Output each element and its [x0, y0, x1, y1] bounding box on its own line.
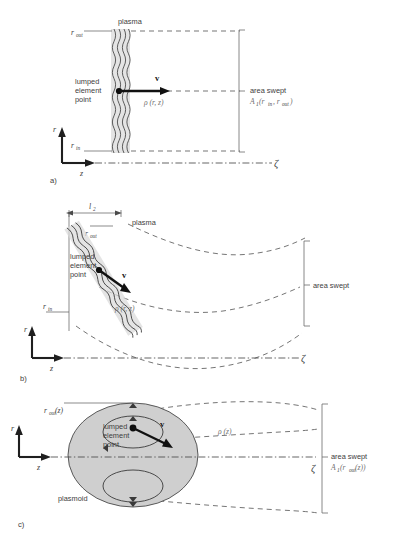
panel-b-z-axis-arrowhead: [54, 354, 64, 362]
panel-b-area-swept-label: area swept: [313, 281, 349, 290]
panel-c-r-axis-label: r: [11, 424, 15, 433]
svg-text:lumped: lumped: [103, 422, 127, 431]
panel-a-lumped-element-label: lumped element point: [75, 77, 101, 104]
panel-b: l 2 r out r in plasma: [20, 202, 349, 383]
svg-text:out: out: [282, 101, 289, 107]
panel-b-r-axis-arrowhead: [28, 326, 36, 336]
svg-text:A: A: [330, 463, 336, 472]
svg-text:element: element: [75, 86, 101, 95]
panel-c-z-axis-arrowhead: [41, 453, 51, 461]
panel-c-r-axis-arrowhead: [15, 425, 23, 435]
panel-c-dashed-top: [150, 402, 318, 410]
panel-a-r-axis-arrowhead: [58, 127, 66, 137]
panel-b-velocity-label: v: [122, 270, 127, 280]
panel-b-z-axis-label: z: [49, 364, 54, 373]
panel-c-rho-label: ρ (z): [217, 427, 232, 436]
svg-text:in: in: [48, 306, 52, 312]
svg-text:(r: (r: [259, 97, 265, 106]
panel-a-plasma-label: plasma: [118, 17, 143, 26]
panel-a-zeta-label: ζ: [274, 158, 279, 170]
svg-text:(z): (z): [55, 406, 63, 415]
svg-text:lumped: lumped: [75, 77, 99, 86]
panel-b-r-axis-label: r: [24, 325, 28, 334]
panel-b-label: b): [20, 374, 27, 383]
panel-b-area-bracket: [304, 241, 310, 326]
svg-text:element: element: [70, 261, 96, 270]
svg-text:point: point: [70, 270, 86, 279]
panel-b-velocity-arrowhead: [120, 283, 131, 293]
panel-a-velocity-label: v: [155, 73, 160, 83]
panel-b-zeta-label: ζ: [301, 353, 306, 365]
panel-c-r-out-label: r out (z): [44, 406, 63, 416]
svg-text:lumped: lumped: [70, 252, 94, 261]
svg-text:, r: , r: [273, 97, 280, 106]
svg-text:2: 2: [93, 206, 96, 212]
svg-text:point: point: [103, 440, 119, 449]
panel-a-z-axis-arrowhead: [85, 159, 95, 167]
svg-text:r: r: [44, 406, 47, 415]
panel-b-dashed-bottom: [76, 326, 302, 369]
svg-text:): ): [289, 97, 293, 106]
panel-b-r-in-label: r in: [43, 302, 52, 312]
panel-a-velocity-arrowhead: [160, 87, 170, 95]
panel-b-plasma-label: plasma: [132, 218, 157, 227]
panel-a-area-swept-label: area swept: [250, 86, 286, 95]
panel-c-plasmoid-label: plasmoid: [58, 494, 88, 503]
panel-a-r-in-label: r in: [71, 141, 80, 151]
svg-text:r: r: [71, 141, 74, 150]
panel-c-z-axis-label: z: [36, 463, 41, 472]
panel-c-area-bracket: [322, 404, 328, 513]
svg-text:out: out: [76, 32, 83, 38]
panel-b-length-arrow-left: [66, 210, 73, 215]
panel-a-label: a): [50, 176, 57, 185]
svg-text:(z)): (z)): [355, 463, 366, 472]
svg-text:out: out: [90, 233, 97, 239]
panel-b-length-label: l 2: [89, 202, 96, 212]
svg-text:in: in: [76, 145, 80, 151]
panel-a-r-out-label: r out: [71, 28, 83, 38]
panel-a-area-formula: A 1 (r in , r out ): [249, 97, 293, 107]
svg-text:element: element: [103, 431, 129, 440]
svg-text:r: r: [71, 28, 74, 37]
panel-a: plasma r out r in lumped element point v…: [50, 17, 293, 185]
svg-text:r: r: [43, 302, 46, 311]
panel-a-rho-label: ρ (r, z): [143, 98, 164, 107]
svg-text:l: l: [89, 202, 91, 211]
svg-text:(r: (r: [340, 463, 346, 472]
panel-c-dashed-bottom: [150, 500, 318, 513]
svg-text:A: A: [249, 97, 255, 106]
panel-c: r out (z) lumped element point v ρ (z) p…: [11, 402, 367, 529]
panel-c-zeta-label: ζ: [311, 463, 316, 475]
panel-c-area-formula: A 1 (r out (z)): [330, 463, 366, 473]
panel-a-r-axis-label: r: [53, 125, 57, 134]
panel-c-area-swept-label: area swept: [331, 452, 367, 461]
panel-c-label: c): [18, 520, 25, 529]
figure-canvas: plasma r out r in lumped element point v…: [0, 0, 395, 547]
svg-text:point: point: [75, 95, 91, 104]
panel-a-z-axis-label: z: [79, 169, 84, 178]
svg-text:in: in: [268, 101, 272, 107]
panel-b-rho-label: ρ (r, z): [114, 304, 135, 313]
panel-b-dashed-top: [128, 224, 305, 255]
panel-c-velocity-label: v: [160, 419, 165, 429]
